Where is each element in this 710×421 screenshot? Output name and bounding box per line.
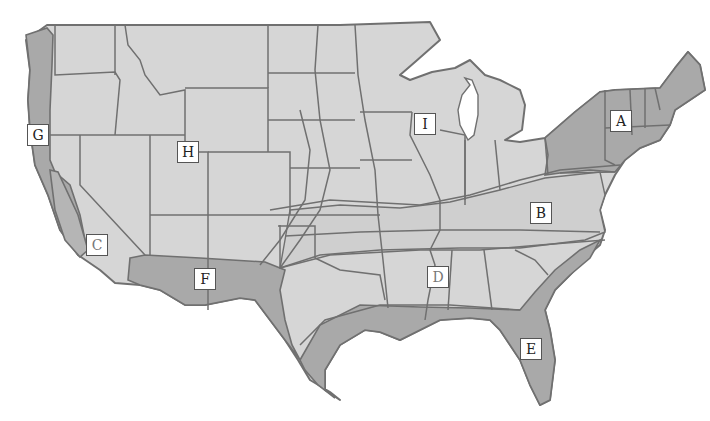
label-d[interactable]: D — [427, 266, 449, 288]
label-b[interactable]: B — [530, 202, 552, 224]
label-e[interactable]: E — [520, 338, 542, 360]
label-g[interactable]: G — [27, 124, 49, 146]
label-f[interactable]: F — [194, 268, 216, 290]
label-c[interactable]: C — [86, 234, 108, 256]
label-i[interactable]: I — [414, 113, 436, 135]
us-map — [0, 0, 710, 421]
label-a[interactable]: A — [610, 110, 632, 132]
label-h[interactable]: H — [177, 141, 199, 163]
